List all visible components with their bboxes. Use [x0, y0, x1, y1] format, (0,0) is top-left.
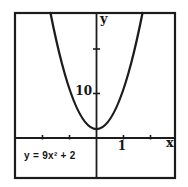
x-tick-label-1: 1	[116, 140, 128, 152]
equation-annotation: y = 9x² + 2	[24, 151, 76, 161]
x-axis-label: x	[166, 136, 174, 149]
function-graph-figure: y x 10 1 y = 9x² + 2	[0, 0, 188, 187]
y-tick-label-10: 10	[72, 85, 92, 97]
y-axis-label: y	[100, 12, 108, 25]
